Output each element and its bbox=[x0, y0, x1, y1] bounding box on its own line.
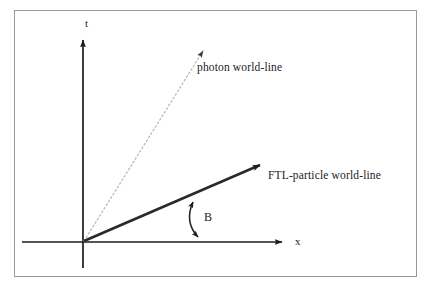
time-axis-label: t bbox=[85, 18, 88, 29]
ftl-world-line bbox=[84, 165, 260, 241]
spacetime-diagram-page: t x B photon world-line FTL-particle wor… bbox=[0, 0, 437, 286]
angle-label-B: B bbox=[204, 211, 212, 223]
photon-world-line bbox=[84, 51, 203, 241]
ftl-world-line-label: FTL-particle world-line bbox=[268, 170, 381, 182]
angle-arc-B bbox=[189, 202, 198, 237]
photon-world-line-label: photon world-line bbox=[197, 62, 282, 74]
space-axis-label: x bbox=[295, 236, 301, 247]
diagram-canvas bbox=[0, 0, 437, 286]
